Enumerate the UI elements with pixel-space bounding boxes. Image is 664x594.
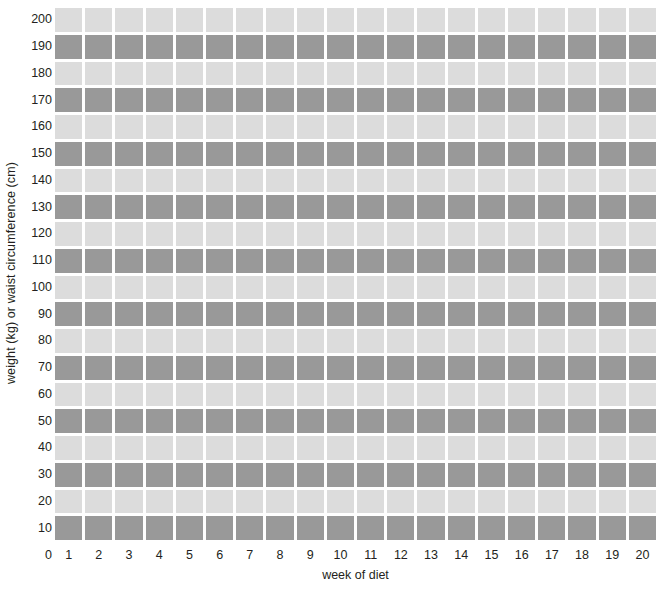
band-cell — [357, 409, 384, 433]
band-cell — [297, 142, 324, 166]
band-cell — [266, 115, 293, 139]
band-cell — [176, 142, 203, 166]
band-cell — [538, 8, 565, 32]
band-cell — [417, 88, 444, 112]
band-cell — [115, 195, 142, 219]
band-cell — [115, 142, 142, 166]
band-row — [55, 169, 656, 193]
band-cell — [568, 195, 595, 219]
x-axis-tick-label: 1 — [55, 546, 82, 564]
band-cell — [176, 276, 203, 300]
band-cell — [266, 436, 293, 460]
band-cell — [236, 62, 263, 86]
band-cell — [448, 302, 475, 326]
x-axis-tick-labels: 1234567891011121314151617181920 — [55, 546, 656, 564]
band-row — [55, 409, 656, 433]
band-cell — [417, 115, 444, 139]
x-axis-tick-label: 10 — [327, 546, 354, 564]
band-cell — [146, 249, 173, 273]
band-cell — [508, 329, 535, 353]
band-cell — [236, 222, 263, 246]
band-row — [55, 62, 656, 86]
chart-container: weight (kg) or waist circumference (cm) … — [0, 0, 664, 594]
band-cell — [146, 463, 173, 487]
band-cell — [629, 463, 656, 487]
band-cell — [146, 8, 173, 32]
x-axis-tick-label: 4 — [146, 546, 173, 564]
band-cell — [357, 222, 384, 246]
band-cell — [297, 115, 324, 139]
y-axis-tick-label: 130 — [22, 201, 52, 214]
band-cell — [357, 490, 384, 514]
band-cell — [146, 115, 173, 139]
band-cell — [236, 195, 263, 219]
band-cell — [387, 356, 414, 380]
band-cell — [599, 8, 626, 32]
band-cell — [568, 329, 595, 353]
band-cell — [55, 8, 82, 32]
band-cell — [115, 463, 142, 487]
band-cell — [357, 115, 384, 139]
x-axis-tick-label: 9 — [297, 546, 324, 564]
band-cell — [176, 35, 203, 59]
band-cell — [599, 436, 626, 460]
y-axis-tick-label: 190 — [22, 40, 52, 53]
x-axis-tick-label: 15 — [478, 546, 505, 564]
band-row — [55, 88, 656, 112]
band-cell — [176, 463, 203, 487]
band-row — [55, 276, 656, 300]
x-axis-tick-label: 12 — [387, 546, 414, 564]
band-cell — [266, 222, 293, 246]
band-cell — [568, 302, 595, 326]
band-cell — [297, 356, 324, 380]
band-cell — [266, 409, 293, 433]
band-row — [55, 356, 656, 380]
band-cell — [85, 490, 112, 514]
band-cell — [478, 142, 505, 166]
band-cell — [176, 302, 203, 326]
band-cell — [568, 383, 595, 407]
band-cell — [387, 383, 414, 407]
band-cell — [236, 329, 263, 353]
band-cell — [55, 329, 82, 353]
band-cell — [55, 169, 82, 193]
band-cell — [448, 463, 475, 487]
band-cell — [357, 436, 384, 460]
band-cell — [387, 302, 414, 326]
band-cell — [387, 8, 414, 32]
band-cell — [55, 115, 82, 139]
band-cell — [387, 249, 414, 273]
band-cell — [508, 142, 535, 166]
band-cell — [538, 88, 565, 112]
band-cell — [568, 88, 595, 112]
band-cell — [327, 356, 354, 380]
band-cell — [85, 302, 112, 326]
band-cell — [266, 62, 293, 86]
band-cell — [538, 409, 565, 433]
band-cell — [236, 35, 263, 59]
band-cell — [55, 463, 82, 487]
y-axis-tick-label: 150 — [22, 147, 52, 160]
band-cell — [629, 249, 656, 273]
band-cell — [599, 490, 626, 514]
band-cell — [599, 88, 626, 112]
band-cell — [206, 8, 233, 32]
band-cell — [357, 276, 384, 300]
band-cell — [115, 62, 142, 86]
band-cell — [538, 222, 565, 246]
x-axis-tick-label: 11 — [357, 546, 384, 564]
band-cell — [236, 249, 263, 273]
band-cell — [146, 276, 173, 300]
band-cell — [327, 142, 354, 166]
band-cell — [55, 276, 82, 300]
band-cell — [538, 142, 565, 166]
band-cell — [327, 35, 354, 59]
band-cell — [115, 88, 142, 112]
x-axis-tick-label: 18 — [568, 546, 595, 564]
band-cell — [266, 142, 293, 166]
x-axis-tick-label: 5 — [176, 546, 203, 564]
band-cell — [55, 249, 82, 273]
band-cell — [146, 35, 173, 59]
band-cell — [146, 62, 173, 86]
band-cell — [176, 356, 203, 380]
